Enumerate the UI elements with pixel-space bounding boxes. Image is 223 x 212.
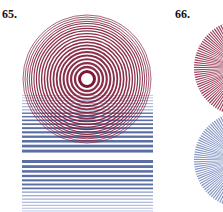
illustration-canvas <box>0 0 223 212</box>
figure-66-red-radial-circle <box>194 20 223 116</box>
figure-66-blue-radial-circle <box>194 112 223 208</box>
